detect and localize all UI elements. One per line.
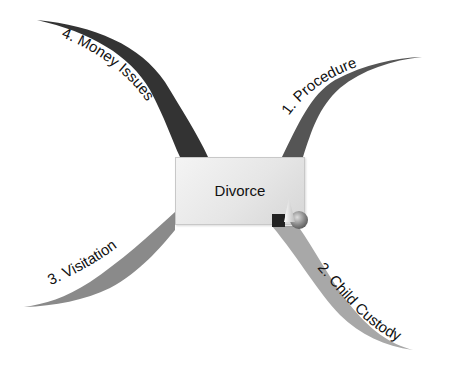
3d-shapes-icon [270,196,312,232]
branch-procedure-ribbon [282,57,422,157]
branch-procedure[interactable]: 1. Procedure [278,54,422,157]
branch-money-issues[interactable]: 4. Money Issues [37,20,208,157]
branch-child-custody[interactable]: 2. Child Custody [272,226,413,350]
branch-visitation[interactable]: 3. Visitation [24,212,175,307]
